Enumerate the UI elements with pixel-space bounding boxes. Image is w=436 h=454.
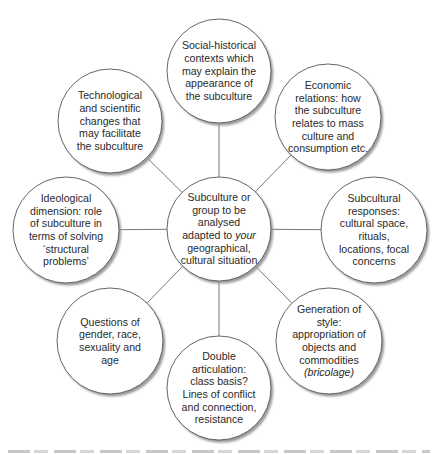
- generation-of-style-line: Generation of: [297, 303, 361, 316]
- social-historical-line: Social-historical: [182, 39, 256, 52]
- technological-changes-line: Technological: [78, 89, 142, 102]
- italic-text: (bricolage): [304, 366, 354, 378]
- questions-of-gender-line: Questions of: [80, 316, 139, 329]
- questions-of-gender-line: gender, race,: [79, 328, 141, 341]
- subcultural-responses-line: locations, focal: [339, 243, 409, 256]
- center-line: geographical,: [187, 242, 251, 255]
- economic-relations-label: Economicrelations: howthe subculturerela…: [275, 64, 381, 170]
- double-articulation-label: Doublearticulation:class basis?Lines of …: [167, 336, 271, 440]
- ideological-dimension-label: Ideologicaldimension: roleof subculture …: [13, 177, 119, 283]
- ideological-dimension-line: ‘structural: [43, 243, 89, 256]
- economic-relations-line: consumption etc.: [288, 142, 368, 155]
- double-articulation-line: class basis?: [190, 375, 248, 388]
- economic-relations-line: relations: how: [295, 92, 360, 105]
- double-articulation-line: Lines of conflict: [182, 388, 255, 401]
- subcultural-responses-line: rituals,: [358, 230, 389, 243]
- center-line: analysed: [198, 216, 240, 229]
- economic-relations-line: Economic: [305, 79, 352, 92]
- social-historical-line: the subculture: [186, 90, 253, 103]
- technological-changes-line: the subculture: [77, 140, 144, 153]
- center-line: adapted to your: [182, 229, 256, 242]
- center-line: cultural situation: [181, 254, 258, 267]
- economic-relations-line: relates to mass: [292, 117, 364, 130]
- double-articulation-line: articulation:: [192, 363, 246, 376]
- generation-of-style-line: style:: [317, 316, 342, 329]
- subcultural-responses-line: concerns: [353, 255, 396, 268]
- double-articulation-line: Double: [202, 350, 236, 363]
- ideological-dimension-line: problems’: [43, 255, 89, 268]
- italic-text: your: [235, 229, 256, 241]
- technological-changes-line: changes that: [80, 115, 141, 128]
- questions-of-gender-label: Questions ofgender, race,sexuality andag…: [57, 288, 163, 394]
- generation-of-style-line: commodities: [299, 354, 358, 367]
- ideological-dimension-line: Ideological: [41, 192, 92, 205]
- generation-of-style-line: (bricolage): [304, 366, 354, 379]
- generation-of-style-label: Generation ofstyle:appropriation ofobjec…: [276, 288, 382, 394]
- center-label: Subculture orgroup to beanalysedadapted …: [167, 177, 271, 281]
- subcultural-responses-line: cultural space,: [340, 217, 408, 230]
- economic-relations-line: culture and: [302, 130, 354, 143]
- technological-changes-line: may facilitate: [79, 127, 141, 140]
- ideological-dimension-line: dimension: role: [30, 205, 102, 218]
- social-historical-line: contexts which: [184, 52, 253, 65]
- caption-text-fragment: [8, 450, 430, 453]
- center-line: Subculture or: [187, 191, 250, 204]
- social-historical-line: appearance of: [185, 77, 253, 90]
- technological-changes-label: Technologicaland scientificchanges thatm…: [58, 69, 162, 173]
- ideological-dimension-line: of subculture in: [30, 217, 102, 230]
- ideological-dimension-line: terms of solving: [29, 230, 103, 243]
- social-historical-line: may explain the: [182, 65, 256, 78]
- subcultural-responses-line: Subcultural: [348, 192, 401, 205]
- center-line: group to be: [192, 204, 246, 217]
- questions-of-gender-line: sexuality and: [79, 341, 141, 354]
- double-articulation-line: resistance: [195, 413, 243, 426]
- double-articulation-line: and connection,: [182, 401, 257, 414]
- social-historical-label: Social-historicalcontexts whichmay expla…: [167, 19, 271, 123]
- clipped-caption: [0, 446, 436, 454]
- subcultural-responses-label: Subculturalresponses:cultural space,ritu…: [321, 177, 427, 283]
- generation-of-style-line: objects and: [302, 341, 356, 354]
- technological-changes-line: and scientific: [79, 102, 140, 115]
- generation-of-style-line: appropriation of: [292, 328, 366, 341]
- economic-relations-line: the subculture: [295, 104, 362, 117]
- subcultural-responses-line: responses:: [348, 205, 400, 218]
- questions-of-gender-line: age: [101, 354, 119, 367]
